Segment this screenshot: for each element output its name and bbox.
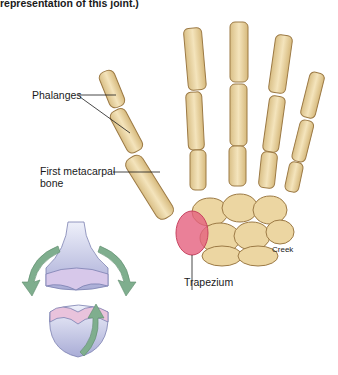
illustrator-credit: Creek: [272, 245, 293, 254]
finger-bones: [183, 22, 325, 193]
label-phalanges: Phalanges: [32, 89, 82, 101]
saddle-joint-model: [46, 222, 108, 357]
thumb-bones: [97, 68, 176, 222]
label-trapezium: Trapezium: [184, 276, 233, 288]
label-first-metacarpal-bone: bone: [40, 177, 63, 189]
trapezium-highlight: [176, 211, 208, 255]
label-first-metacarpal: First metacarpal: [40, 165, 115, 177]
